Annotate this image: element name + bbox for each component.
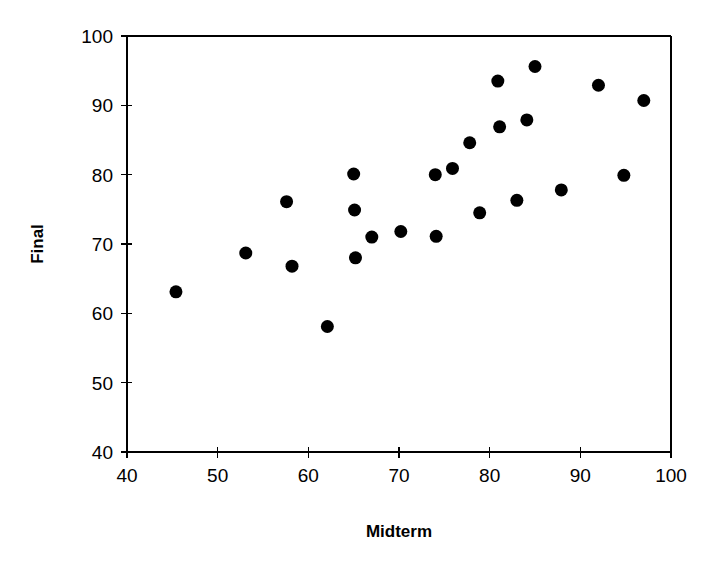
data-point — [280, 195, 293, 208]
data-point — [347, 167, 360, 180]
y-tick-label: 60 — [92, 303, 113, 324]
data-point — [321, 320, 334, 333]
data-point — [617, 169, 630, 182]
data-point — [493, 120, 506, 133]
x-tick-label: 100 — [655, 465, 687, 486]
y-tick-label: 80 — [92, 165, 113, 186]
x-tick-label: 60 — [298, 465, 319, 486]
x-tick-label: 70 — [388, 465, 409, 486]
data-point — [491, 75, 504, 88]
data-point — [510, 194, 523, 207]
x-tick-label: 50 — [207, 465, 228, 486]
y-axis-title: Final — [28, 224, 47, 264]
data-point — [348, 204, 361, 217]
x-tick-label: 90 — [570, 465, 591, 486]
scatter-plot-figure: 405060708090100 405060708090100 Midterm … — [0, 0, 721, 563]
data-point — [529, 60, 542, 73]
x-axis-title: Midterm — [366, 522, 432, 541]
y-tick-label: 40 — [92, 442, 113, 463]
y-tick-label: 100 — [81, 26, 113, 47]
y-tick-label: 90 — [92, 95, 113, 116]
data-point — [555, 183, 568, 196]
plot-background — [0, 0, 721, 563]
data-point — [169, 285, 182, 298]
y-tick-label: 50 — [92, 373, 113, 394]
data-point — [520, 113, 533, 126]
data-point — [637, 94, 650, 107]
y-tick-label: 70 — [92, 234, 113, 255]
data-point — [473, 206, 486, 219]
data-point — [429, 168, 442, 181]
data-point — [239, 247, 252, 260]
x-tick-label: 40 — [116, 465, 137, 486]
plot-canvas: 405060708090100 405060708090100 Midterm … — [0, 0, 721, 563]
data-point — [394, 225, 407, 238]
x-tick-label: 80 — [479, 465, 500, 486]
data-point — [286, 260, 299, 273]
data-point — [592, 79, 605, 92]
data-point — [430, 230, 443, 243]
data-point — [446, 162, 459, 175]
data-point — [365, 231, 378, 244]
data-point — [463, 136, 476, 149]
data-point — [349, 251, 362, 264]
